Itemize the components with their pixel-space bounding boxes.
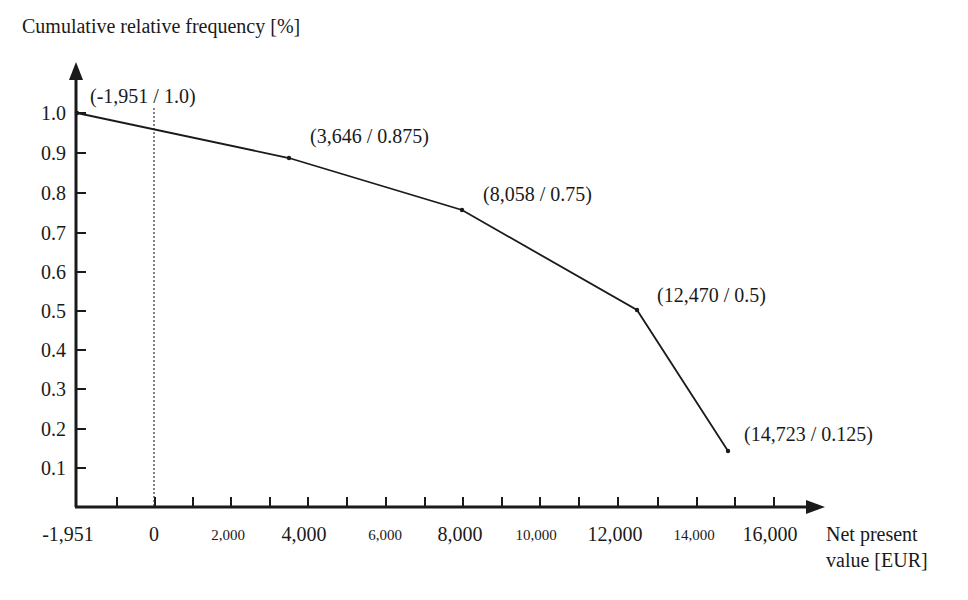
y-tick-label: 0.2	[41, 418, 66, 440]
y-tick-label: 0.6	[41, 261, 66, 283]
x-tick-label: 16,000	[743, 523, 798, 545]
data-points	[75, 111, 730, 453]
point-annotations: (-1,951 / 1.0) (3,646 / 0.875) (8,058 / …	[90, 85, 873, 446]
x-tick-label: 10,000	[515, 527, 556, 543]
x-tick-label: 6,000	[368, 527, 402, 543]
x-tick-label: -1,951	[42, 523, 94, 545]
x-axis-label-line2: value [EUR]	[826, 549, 928, 571]
y-axis-label: Cumulative relative frequency [%]	[22, 15, 300, 38]
point-label: (14,723 / 0.125)	[744, 423, 873, 446]
y-axis-arrow-icon	[69, 62, 83, 80]
data-point	[726, 449, 730, 453]
y-tick-label: 0.1	[41, 457, 66, 479]
x-tick-label: 8,000	[438, 523, 483, 545]
x-tick-label: 2,000	[211, 527, 245, 543]
data-point	[287, 156, 291, 160]
point-label: (3,646 / 0.875)	[310, 125, 429, 148]
data-line	[77, 113, 728, 451]
y-tick-label: 0.5	[41, 300, 66, 322]
y-tick-labels: 1.0 0.9 0.8 0.7 0.6 0.5 0.4 0.3 0.2 0.1	[41, 102, 66, 479]
y-tick-label: 0.7	[41, 222, 66, 244]
x-axis-label-line1: Net present	[826, 523, 918, 546]
y-tick-label: 0.3	[41, 378, 66, 400]
x-axis-arrow-icon	[806, 500, 825, 514]
x-tick-label: 12,000	[588, 523, 643, 545]
y-tick-label: 0.4	[41, 339, 66, 361]
y-tick-label: 0.8	[41, 182, 66, 204]
x-tick-label: 14,000	[673, 527, 714, 543]
y-tick-label: 0.9	[41, 142, 66, 164]
point-label: (12,470 / 0.5)	[657, 284, 766, 307]
data-point	[635, 308, 639, 312]
data-point	[75, 111, 79, 115]
x-tick-label: 0	[149, 523, 159, 545]
point-label: (8,058 / 0.75)	[483, 183, 592, 206]
data-point	[460, 208, 464, 212]
x-tick-labels: -1,951 0 2,000 4,000 6,000 8,000 10,000 …	[42, 523, 797, 545]
chart-canvas: Cumulative relative frequency [%] 1.0 0.…	[0, 0, 968, 600]
y-tick-label: 1.0	[41, 102, 66, 124]
point-label: (-1,951 / 1.0)	[90, 85, 196, 108]
x-tick-label: 4,000	[282, 523, 327, 545]
